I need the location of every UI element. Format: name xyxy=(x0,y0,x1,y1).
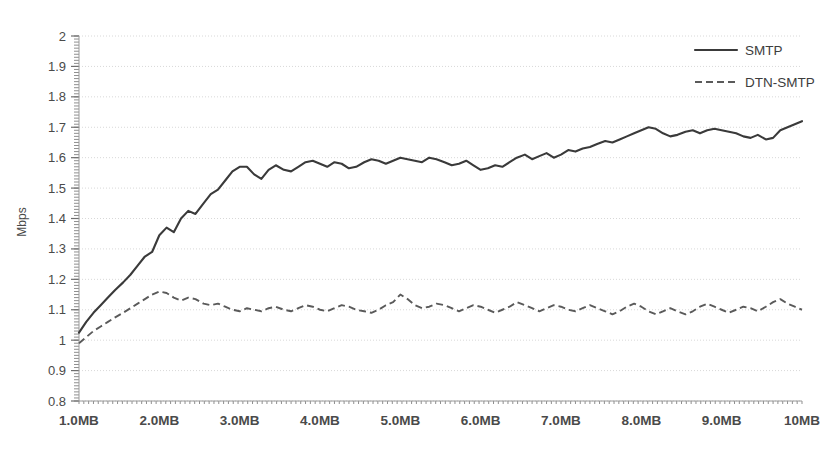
x-tick-label: 8.0MB xyxy=(621,413,661,428)
x-tick-label: 10MB xyxy=(784,413,820,428)
y-tick-label: 1.9 xyxy=(48,59,66,74)
x-tick-label: 7.0MB xyxy=(541,413,581,428)
series-line-dtn-smtp xyxy=(79,292,802,344)
y-axis-tick-labels: 21.91.81.71.61.51.41.31.21.110.90.8 xyxy=(48,29,66,409)
y-tick-label: 2 xyxy=(59,29,66,44)
legend-label-dtn-smtp: DTN-SMTP xyxy=(745,75,815,90)
x-tick-label: 9.0MB xyxy=(702,413,742,428)
y-tick-label: 1.3 xyxy=(48,241,66,256)
y-axis-title: Mbps xyxy=(15,207,29,236)
y-tick-label: 1.7 xyxy=(48,120,66,135)
y-tick-label: 1.6 xyxy=(48,150,66,165)
x-tick-label: 1.0MB xyxy=(59,413,99,428)
x-axis-tick-labels: 1.0MB2.0MB3.0MB4.0MB5.0MB6.0MB7.0MB8.0MB… xyxy=(59,413,820,428)
series-line-smtp xyxy=(79,121,802,332)
y-tick-label: 0.9 xyxy=(48,363,66,378)
gridlines-group xyxy=(79,36,802,401)
x-tick-label: 5.0MB xyxy=(380,413,420,428)
chart-container: 21.91.81.71.61.51.41.31.21.110.90.8 1.0M… xyxy=(0,0,830,459)
legend-label-smtp: SMTP xyxy=(745,43,783,58)
y-tick-label: 1.4 xyxy=(48,211,66,226)
y-tick-label: 1.1 xyxy=(48,302,66,317)
y-tick-label: 0.8 xyxy=(48,394,66,409)
x-tick-label: 2.0MB xyxy=(139,413,179,428)
line-chart: 21.91.81.71.61.51.41.31.21.110.90.8 1.0M… xyxy=(0,0,830,459)
x-tick-label: 3.0MB xyxy=(220,413,260,428)
x-tick-label: 6.0MB xyxy=(461,413,501,428)
y-tick-label: 1.8 xyxy=(48,89,66,104)
y-tick-label: 1 xyxy=(59,333,66,348)
y-tick-label: 1.5 xyxy=(48,181,66,196)
x-tick-label: 4.0MB xyxy=(300,413,340,428)
y-tick-label: 1.2 xyxy=(48,272,66,287)
